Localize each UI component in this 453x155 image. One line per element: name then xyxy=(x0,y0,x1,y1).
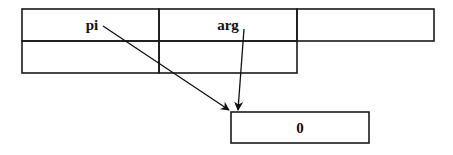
arrow-pi-to-zero xyxy=(103,26,229,110)
label-zero: 0 xyxy=(296,120,304,136)
cell-row2-left xyxy=(22,41,159,73)
cell-row2-mid xyxy=(159,41,297,73)
label-pi: pi xyxy=(86,17,99,33)
pointer-diagram: pi arg 0 xyxy=(0,0,453,155)
label-arg: arg xyxy=(217,17,239,33)
table-row-2 xyxy=(22,41,297,73)
cell-empty-right xyxy=(297,9,434,41)
